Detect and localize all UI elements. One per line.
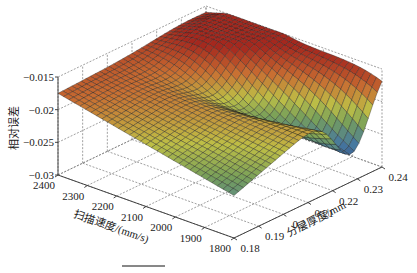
x-axis-ticks: 2400230022002100200019001800 [33,175,234,254]
x-tick-label: 2100 [121,211,144,223]
surface-mesh [58,12,382,195]
x-tick-label: 2200 [92,200,115,212]
z-tick-label: −0.02 [29,104,54,116]
x-tick-label: 2000 [150,221,173,233]
z-axis-label: 相对误差 [7,106,20,150]
y-tick-label: 0.19 [265,230,285,242]
y-tick-label: 0.23 [364,183,384,195]
x-tick-label: 2400 [33,179,56,191]
z-tick-label: −0.015 [23,71,54,83]
x-tick-label: 1900 [180,232,203,244]
x-tick-label: 2300 [62,190,85,202]
x-tick-label: 1800 [209,242,232,254]
z-tick-label: −0.025 [23,136,54,148]
z-axis-ticks: −0.015−0.02−0.025−0.03 [23,71,58,181]
y-tick-label: 0.18 [240,242,260,254]
surface-chart: −0.015−0.02−0.025−0.03 24002300220021002… [0,0,417,273]
y-tick-label: 0.24 [388,171,408,183]
